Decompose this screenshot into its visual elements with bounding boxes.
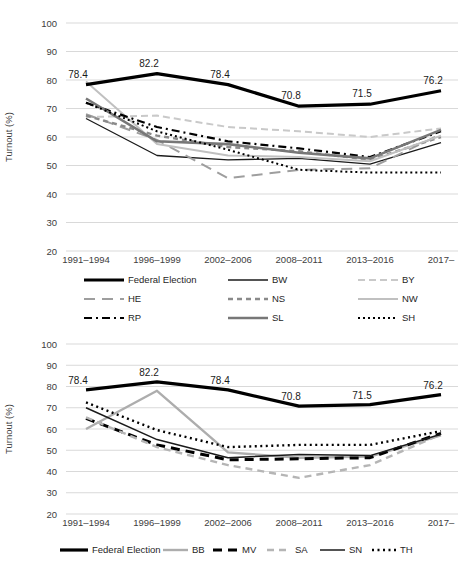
legend-label-by: BY [402,274,415,285]
y-tick-label: 90 [46,360,57,371]
federal-value-label: 78.4 [210,375,230,386]
y-tick-label: 70 [46,402,57,413]
y-tick-label: 50 [46,160,57,171]
series-line-bw [86,119,441,165]
legend-label-mv: MV [242,544,257,555]
y-tick-label: 30 [46,217,57,228]
federal-value-label: 71.5 [352,88,372,99]
y-tick-label: 60 [46,424,57,435]
legend-label-nw: NW [402,293,418,304]
federal-value-label: 70.8 [281,90,301,101]
federal-value-label: 71.5 [352,390,372,401]
y-tick-label: 70 [46,103,57,114]
series-line-ns [86,116,441,160]
series-line-sh [86,103,441,173]
x-tick-label: 2017– [428,517,455,528]
y-tick-label: 90 [46,46,57,57]
series-line-th [86,402,441,447]
series-line-sa [86,417,441,478]
y-axis-title: Turnout (%) [3,112,14,162]
x-tick-label: 1996–1999 [133,254,181,265]
x-tick-label: 2008–2011 [276,254,323,265]
y-tick-label: 20 [46,246,57,257]
legend-label-federal-election: Federal Election [92,544,161,555]
series-line-federal-election [86,74,441,107]
legend-label-th: TH [400,544,413,555]
y-tick-label: 100 [41,18,57,29]
y-axis-title: Turnout (%) [3,404,14,454]
x-tick-label: 1996–1999 [133,517,181,528]
y-tick-label: 20 [46,509,57,520]
federal-value-label: 78.4 [68,69,88,80]
federal-value-label: 82.2 [139,367,159,378]
legend-label-bb: BB [192,544,205,555]
federal-value-label: 78.4 [210,69,230,80]
x-tick-label: 1991–1994 [62,517,110,528]
y-tick-label: 30 [46,487,57,498]
federal-value-label: 76.2 [423,380,443,391]
x-tick-label: 1991–1994 [62,254,110,265]
legend-label-sh: SH [402,312,415,323]
y-tick-label: 50 [46,445,57,456]
federal-value-label: 82.2 [139,58,159,69]
federal-value-label: 78.4 [68,375,88,386]
x-tick-label: 2002–2006 [204,254,252,265]
series-line-mv [86,418,441,459]
y-tick-label: 40 [46,189,57,200]
figure-svg: 10090807060504030201991–19941996–1999200… [0,0,476,569]
x-tick-label: 2013–2016 [346,254,394,265]
legend-label-sn: SN [349,544,362,555]
federal-value-label: 76.2 [423,75,443,86]
y-tick-label: 40 [46,466,57,477]
y-tick-label: 80 [46,381,57,392]
x-tick-label: 2002–2006 [204,517,252,528]
y-tick-label: 60 [46,132,57,143]
turnout-figure: 10090807060504030201991–19941996–1999200… [0,0,476,569]
legend-label-sl: SL [272,312,284,323]
x-tick-label: 2008–2011 [276,517,323,528]
series-line-federal-election [86,382,441,406]
federal-value-label: 70.8 [281,391,301,402]
legend-label-sa: SA [295,544,308,555]
legend-label-rp: RP [128,312,141,323]
legend-label-federal-election: Federal Election [128,274,197,285]
x-tick-label: 2013–2016 [346,517,394,528]
x-tick-label: 2017– [428,254,455,265]
y-tick-label: 100 [41,339,57,350]
legend-label-he: HE [128,293,141,304]
legend-label-ns: NS [272,293,285,304]
legend-label-bw: BW [272,274,287,285]
y-tick-label: 80 [46,75,57,86]
